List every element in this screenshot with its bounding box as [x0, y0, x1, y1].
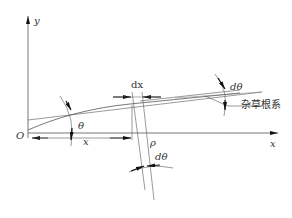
theta-arc	[60, 96, 72, 146]
theta-label: θ	[78, 121, 84, 131]
rho-label: ρ	[150, 138, 156, 148]
origin-label: O	[16, 131, 24, 141]
x-length-label: x	[83, 137, 89, 147]
dtheta-top-label: dθ	[230, 82, 242, 92]
dtheta-bottom-label: dθ	[155, 152, 167, 162]
dx-label: dx	[131, 80, 143, 90]
x-axis-label: x	[270, 139, 276, 149]
weed-root-label: 杂草根系	[241, 100, 281, 110]
tangent-line	[28, 92, 262, 120]
y-axis-label: y	[34, 16, 40, 26]
